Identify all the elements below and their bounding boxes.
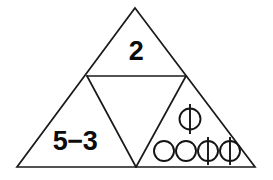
triangle-figure: 2 5−3 — [0, 0, 273, 180]
bottom-left-triangle-label: 5−3 — [20, 126, 130, 156]
top-triangle-label: 2 — [0, 36, 273, 66]
